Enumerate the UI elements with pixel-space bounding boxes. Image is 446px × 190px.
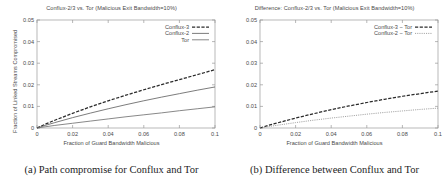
series-line-0 [37, 70, 215, 128]
legend-label-0: Conflux-3 [165, 24, 189, 30]
y-tick-label: 0.02 [246, 82, 257, 88]
caption-b: (b) Difference between Conflux and Tor [223, 160, 446, 175]
x-tick-label: 0.04 [326, 131, 337, 137]
x-tick-label: 0 [258, 131, 261, 137]
legend-label-2: Tor [181, 37, 189, 43]
series-line-1 [260, 108, 438, 128]
figure-panels-row: Conflux-2/3 vs. Tor (Malicious Exit Band… [0, 0, 446, 160]
plot-area-b: 00.020.040.060.080.100.010.020.030.040.0… [223, 0, 446, 160]
y-tick-label: 0 [254, 125, 257, 131]
series-line-0 [260, 91, 438, 128]
chart-panel-a: Conflux-2/3 vs. Tor (Malicious Exit Band… [0, 0, 223, 160]
plot-area-a: 00.020.040.060.080.100.010.020.030.040.0… [0, 0, 223, 160]
y-tick-label: 0.02 [23, 82, 34, 88]
x-tick-label: 0.06 [138, 131, 149, 137]
y-tick-label: 0.05 [23, 17, 34, 23]
legend-label-1: Conflux-2 − Tor [374, 30, 412, 36]
y-tick-label: 0.04 [23, 39, 34, 45]
y-tick-label: 0.03 [23, 60, 34, 66]
y-tick-label: 0 [31, 125, 34, 131]
chart-svg-a: 00.020.040.060.080.100.010.020.030.040.0… [0, 0, 223, 160]
x-tick-label: 0.04 [103, 131, 114, 137]
y-tick-label: 0.01 [246, 103, 257, 109]
legend-label-1: Conflux-2 [165, 30, 189, 36]
y-tick-label: 0.03 [246, 60, 257, 66]
x-tick-label: 0.02 [67, 131, 78, 137]
x-tick-label: 0.06 [361, 131, 372, 137]
y-tick-label: 0.05 [246, 17, 257, 23]
chart-panel-b: Difference: Conflux-2/3 vs. Tor (Malicio… [223, 0, 446, 160]
x-tick-label: 0.1 [211, 131, 219, 137]
x-tick-label: 0.1 [434, 131, 442, 137]
y-tick-label: 0.01 [23, 103, 34, 109]
legend-label-0: Conflux-3 − Tor [374, 24, 412, 30]
x-tick-label: 0 [35, 131, 38, 137]
chart-svg-b: 00.020.040.060.080.100.010.020.030.040.0… [223, 0, 446, 160]
caption-row: (a) Path compromise for Conflux and Tor … [0, 160, 446, 190]
x-tick-label: 0.02 [290, 131, 301, 137]
y-tick-label: 0.04 [246, 39, 257, 45]
x-tick-label: 0.08 [397, 131, 408, 137]
x-tick-label: 0.08 [174, 131, 185, 137]
series-line-1 [37, 87, 215, 128]
caption-a: (a) Path compromise for Conflux and Tor [0, 160, 223, 175]
